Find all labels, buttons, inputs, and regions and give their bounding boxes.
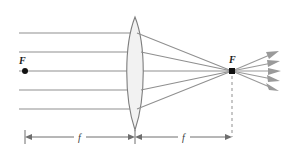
focal-point-left-dot xyxy=(22,68,28,74)
focal-point-right-label: F xyxy=(228,54,236,65)
refracted-ray-1 xyxy=(137,33,232,71)
diverging-ray-1 xyxy=(232,54,272,71)
diverging-rays-with-arrows xyxy=(232,51,281,91)
dimension-arrowhead-left-start xyxy=(25,134,32,140)
lens-ray-diagram: F F f f xyxy=(0,0,299,156)
arrowhead-5 xyxy=(266,83,279,91)
refracted-ray-2 xyxy=(141,52,232,71)
arrowhead-2 xyxy=(267,60,280,67)
refracted-ray-5 xyxy=(137,71,232,109)
focal-point-left-label: F xyxy=(18,55,26,66)
arrowhead-3 xyxy=(268,68,281,75)
diverging-ray-2 xyxy=(232,63,272,71)
arrowhead-1 xyxy=(266,51,279,59)
dimension-left-f: f xyxy=(25,130,135,144)
dimension-arrowhead-left-end xyxy=(128,134,135,140)
arrowhead-4 xyxy=(267,75,280,82)
focal-point-right-dot xyxy=(229,68,235,74)
refracted-ray-4 xyxy=(141,71,232,90)
dimension-arrowhead-right-end xyxy=(225,134,232,140)
dimension-arrowhead-right-start xyxy=(135,134,142,140)
diverging-ray-4 xyxy=(232,71,272,79)
optics-diagram-canvas: F F f f xyxy=(0,0,299,156)
diverging-ray-5 xyxy=(232,71,272,88)
dimension-right-f: f xyxy=(135,130,232,144)
refracted-converging-rays xyxy=(137,33,232,109)
